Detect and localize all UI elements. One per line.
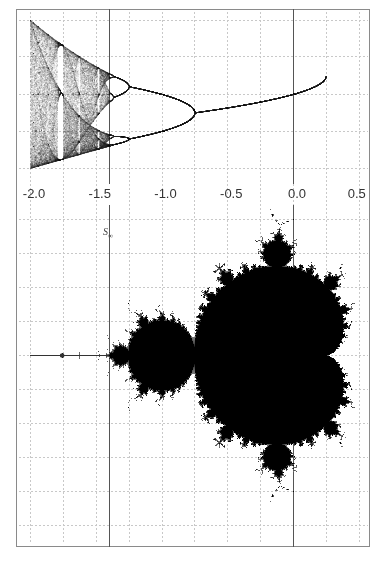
x-tick-label: -0.5 <box>220 186 242 201</box>
x-tick-label: -2.0 <box>23 186 45 201</box>
x-tick-label: 0.5 <box>348 186 366 201</box>
x-tick-label: -1.0 <box>154 186 176 201</box>
x-tick-label: 0.0 <box>288 186 306 201</box>
s-infinity-annotation: S∞ <box>103 226 113 240</box>
x-tick-label: -1.5 <box>89 186 111 201</box>
plot-canvas <box>0 0 382 562</box>
